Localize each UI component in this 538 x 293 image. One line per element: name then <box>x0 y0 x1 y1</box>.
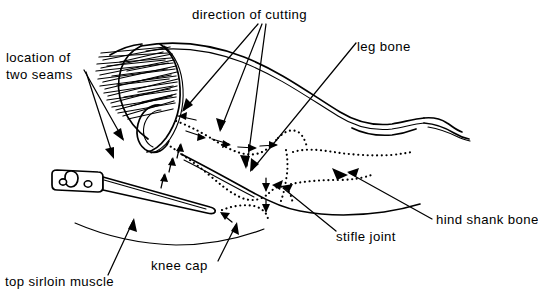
cut-arrow-down-1 <box>262 178 270 192</box>
knife-rivet-2 <box>84 181 92 187</box>
hind-shank-taper <box>424 123 469 139</box>
leader-top-sirloin-muscle <box>108 218 137 275</box>
seam-upper <box>176 121 278 154</box>
back-outline-inner <box>146 49 424 130</box>
hind-shank-upper <box>424 118 462 132</box>
cut-arrow-right-2 <box>212 139 231 148</box>
knife-rivet-1 <box>59 179 66 185</box>
cut-arrow-stifle <box>272 180 283 190</box>
leader-stifle-joint <box>281 184 336 231</box>
leader-direction-of-cutting-1 <box>182 24 258 112</box>
cut-arrow-shank <box>332 168 348 180</box>
hind-shank-taper-inner <box>428 127 470 141</box>
back-outline <box>141 43 424 124</box>
cut-arrow-right-1 <box>186 131 206 141</box>
seam-knee-loop <box>222 205 268 219</box>
cut-arrow-up-2 <box>168 157 176 172</box>
label-location-of-two-seams-line2: two seams <box>6 67 73 82</box>
label-stifle-joint: stifle joint <box>336 229 396 244</box>
seam-lower <box>167 144 269 200</box>
text-labels: direction of cutting leg bone location o… <box>5 7 538 289</box>
leg-bone-line <box>181 154 420 215</box>
label-location-of-two-seams-line1: location of <box>6 50 71 65</box>
boning-knife <box>52 170 215 214</box>
diagram-canvas: direction of cutting leg bone location o… <box>0 0 538 293</box>
cut-arrow-knee <box>220 212 232 222</box>
seam-shank-upper <box>293 150 412 156</box>
seam-stifle-vertical <box>281 150 288 201</box>
cut-arrow-right-3 <box>238 144 257 152</box>
knife-blade-spine <box>104 180 206 209</box>
leg-underline <box>184 160 254 197</box>
butchery-diagram-figure: direction of cutting leg bone location o… <box>0 0 538 293</box>
label-hind-shank-bone: hind shank bone <box>436 212 538 227</box>
cut-arrow-up-3 <box>160 173 168 188</box>
seam-shank-lower <box>291 174 374 184</box>
knife-bolster <box>65 171 78 187</box>
label-leg-bone: leg bone <box>357 39 411 54</box>
label-direction-of-cutting: direction of cutting <box>192 7 307 22</box>
label-knee-cap: knee cap <box>151 258 208 273</box>
label-top-sirloin-muscle: top sirloin muscle <box>5 274 114 289</box>
leader-direction-of-cutting-2 <box>216 24 262 132</box>
aitch-bone-hatching <box>96 47 178 119</box>
